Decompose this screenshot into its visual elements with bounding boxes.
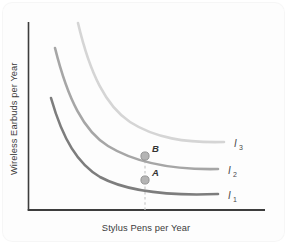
curve-i1 bbox=[51, 98, 218, 194]
curve-label-i3: I 3 bbox=[234, 138, 243, 151]
curve-label-i3-subscript: 3 bbox=[239, 144, 243, 151]
point-a-marker bbox=[141, 176, 149, 184]
curve-label-i3-text: I bbox=[234, 138, 237, 149]
curve-label-i1-subscript: 1 bbox=[233, 196, 237, 203]
curve-i3 bbox=[78, 23, 224, 142]
point-a-label: A bbox=[151, 167, 159, 178]
curve-label-i2-subscript: 2 bbox=[233, 171, 237, 178]
curve-label-i1: I 1 bbox=[228, 190, 237, 203]
curve-label-i2-text: I bbox=[228, 165, 231, 176]
point-b-label: B bbox=[152, 143, 159, 154]
y-axis-title: Wireless Earbuds per Year bbox=[9, 62, 19, 175]
point-b-marker bbox=[141, 152, 149, 160]
indifference-curve-chart: Wireless Earbuds per Year Stylus Pens pe… bbox=[0, 0, 287, 250]
curve-i2 bbox=[55, 48, 218, 169]
curve-label-i2: I 2 bbox=[228, 165, 237, 178]
figure-card: Wireless Earbuds per Year Stylus Pens pe… bbox=[0, 0, 287, 250]
x-axis-title: Stylus Pens per Year bbox=[102, 223, 190, 233]
curve-label-i1-text: I bbox=[228, 190, 231, 201]
